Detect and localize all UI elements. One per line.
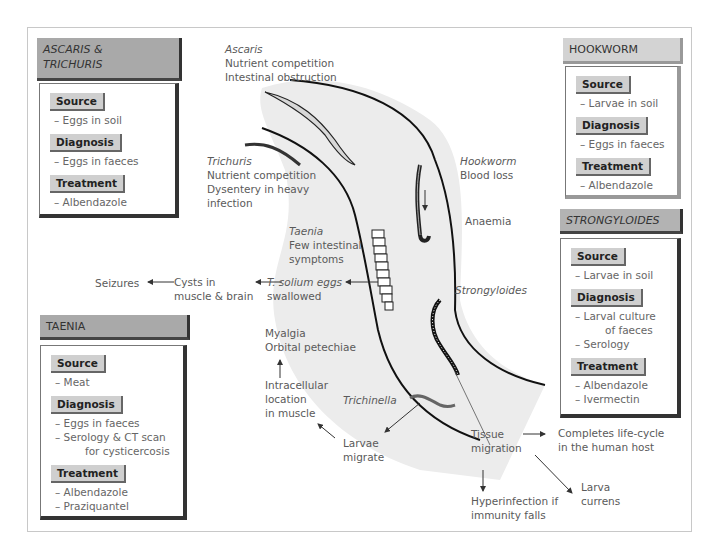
annotation-taenia: Taenia Few intestinal symptoms: [289, 224, 362, 266]
label-diagnosis: Diagnosis: [50, 134, 122, 152]
annotation-trichinella-symptoms: Myalgia Orbital petechiae: [265, 326, 356, 354]
annotation-hyperinfection: Hyperinfection if immunity falls: [471, 494, 558, 522]
panel-strongyloides-header: STRONGYLOIDES: [560, 209, 683, 234]
panel-taenia-header: TAENIA: [40, 315, 190, 340]
arrow-tissue-larva-currens: [535, 455, 572, 493]
annotation-seizures: Seizures: [95, 276, 139, 290]
panel-ascaris-header: ASCARIS & TRICHURIS: [37, 38, 182, 81]
label-treatment: Treatment: [571, 358, 646, 376]
annotation-tissue-migration: Tissue migration: [471, 427, 522, 455]
label-source: Source: [576, 76, 631, 94]
panel-ascaris-body: Source – Eggs in soil Diagnosis – Eggs i…: [39, 83, 179, 218]
label-treatment: Treatment: [50, 175, 125, 193]
annotation-larvae-migrate: Larvae migrate: [343, 436, 384, 464]
label-treatment: Treatment: [51, 465, 126, 483]
annotation-taenia-eggs: T. solium eggs swallowed: [267, 275, 342, 303]
panel-hookworm-header: HOOKWORM: [563, 38, 683, 64]
label-source: Source: [51, 355, 106, 373]
annotation-hookworm: Hookworm Blood loss: [460, 154, 516, 182]
annotation-trichinella-location: Intracellular location in muscle: [265, 378, 328, 420]
panel-taenia-body: Source – Meat Diagnosis – Eggs in faeces…: [40, 345, 187, 520]
label-diagnosis: Diagnosis: [571, 289, 643, 307]
annotation-anaemia: Anaemia: [465, 214, 511, 228]
label-diagnosis: Diagnosis: [576, 117, 648, 135]
label-source: Source: [571, 248, 626, 266]
arrow-larvae-location: [318, 424, 335, 438]
label-treatment: Treatment: [576, 158, 651, 176]
label-diagnosis: Diagnosis: [51, 396, 123, 414]
label-source: Source: [50, 93, 105, 111]
annotation-cysts: Cysts in muscle & brain: [174, 275, 253, 303]
annotation-strongyloides: Strongyloides: [455, 283, 527, 297]
annotation-ascaris: Ascaris Nutrient competition Intestinal …: [225, 42, 337, 84]
annotation-trichinella: Trichinella: [343, 393, 397, 407]
panel-hookworm-body: Source – Larvae in soil Diagnosis – Eggs…: [565, 66, 681, 199]
annotation-larva-currens: Larva currens: [581, 480, 620, 508]
annotation-lifecycle: Completes life-cycle in the human host: [558, 426, 664, 454]
annotation-trichuris: Trichuris Nutrient competition Dysentery…: [207, 154, 316, 210]
panel-strongyloides-body: Source – Larvae in soil Diagnosis – Larv…: [560, 238, 681, 418]
